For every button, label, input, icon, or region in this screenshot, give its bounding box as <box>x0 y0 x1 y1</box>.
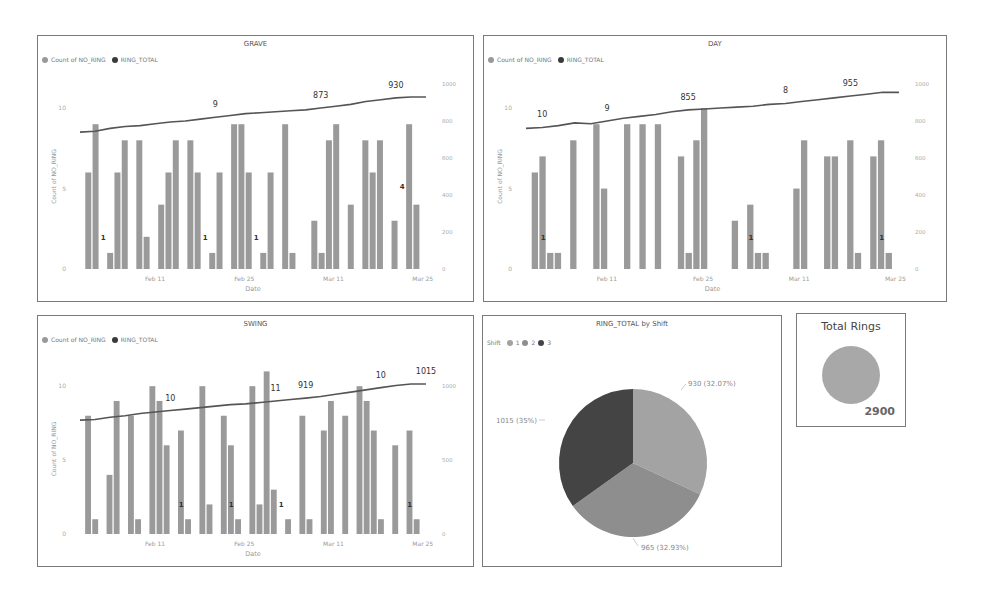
svg-text:9: 9 <box>213 100 218 109</box>
svg-text:8: 8 <box>783 86 788 95</box>
svg-text:10: 10 <box>504 104 512 111</box>
svg-text:600: 600 <box>442 155 453 161</box>
svg-text:1: 1 <box>254 234 259 242</box>
svg-text:1015 (35%): 1015 (35%) <box>496 417 537 425</box>
card-title: Total Rings <box>797 320 905 333</box>
svg-text:Mar 25: Mar 25 <box>412 540 433 547</box>
svg-text:Feb 25: Feb 25 <box>693 275 713 282</box>
svg-text:Mar 11: Mar 11 <box>789 275 810 282</box>
svg-text:5: 5 <box>62 456 66 463</box>
svg-text:10: 10 <box>58 382 66 389</box>
grave-combo-chart: 051002004006008001000Count of NO_RINGDat… <box>38 36 473 301</box>
card-circle-icon <box>822 346 880 404</box>
svg-text:200: 200 <box>915 229 926 235</box>
svg-text:1: 1 <box>229 501 234 509</box>
svg-text:Mar 25: Mar 25 <box>412 275 433 282</box>
svg-text:919: 919 <box>298 381 313 390</box>
swing-combo-chart: 051005001000Count of NO_RINGDate1111Feb … <box>38 316 473 566</box>
svg-text:10: 10 <box>58 104 66 111</box>
svg-text:855: 855 <box>681 93 696 102</box>
svg-text:930 (32.07%): 930 (32.07%) <box>688 380 736 388</box>
total-rings-card[interactable]: Total Rings 2900 <box>796 313 906 427</box>
svg-text:1: 1 <box>203 234 208 242</box>
svg-text:400: 400 <box>442 192 453 198</box>
svg-text:0: 0 <box>442 531 446 537</box>
svg-text:0: 0 <box>442 266 446 272</box>
svg-text:1: 1 <box>101 234 106 242</box>
svg-text:873: 873 <box>313 91 328 100</box>
svg-text:500: 500 <box>442 457 453 463</box>
svg-text:800: 800 <box>442 118 453 124</box>
day-combo-chart: 051002004006008001000Count of NO_RINGDat… <box>484 36 946 301</box>
svg-text:930: 930 <box>388 81 403 90</box>
svg-text:0: 0 <box>915 266 919 272</box>
svg-text:Feb 11: Feb 11 <box>145 275 165 282</box>
svg-text:Count of NO_RING: Count of NO_RING <box>50 149 58 204</box>
svg-text:Mar 11: Mar 11 <box>323 275 344 282</box>
svg-text:1: 1 <box>407 501 412 509</box>
svg-text:Date: Date <box>705 285 721 293</box>
svg-text:965 (32.93%): 965 (32.93%) <box>641 544 689 552</box>
svg-text:200: 200 <box>442 229 453 235</box>
day-chart-panel[interactable]: DAY Count of NO_RING RING_TOTAL 05100200… <box>483 35 947 302</box>
svg-text:11: 11 <box>270 384 280 393</box>
svg-text:Date: Date <box>245 550 261 558</box>
svg-text:9: 9 <box>605 104 610 113</box>
svg-text:0: 0 <box>508 265 512 272</box>
svg-text:1: 1 <box>748 234 753 242</box>
svg-text:5: 5 <box>62 185 66 192</box>
svg-text:Feb 25: Feb 25 <box>234 540 254 547</box>
swing-chart-panel[interactable]: SWING Count of NO_RING RING_TOTAL 051005… <box>37 315 474 567</box>
svg-text:Count of NO_RING: Count of NO_RING <box>496 149 504 204</box>
svg-text:400: 400 <box>915 192 926 198</box>
svg-text:1015: 1015 <box>416 367 436 376</box>
svg-text:1: 1 <box>179 501 184 509</box>
svg-text:1000: 1000 <box>442 81 456 87</box>
svg-text:1: 1 <box>879 234 884 242</box>
svg-text:Feb 25: Feb 25 <box>234 275 254 282</box>
card-value: 2900 <box>864 405 895 418</box>
pie-chart-panel[interactable]: RING_TOTAL by Shift Shift 1 2 3 930 (32.… <box>482 315 782 567</box>
svg-text:Mar 25: Mar 25 <box>885 275 906 282</box>
svg-text:Count of NO_RING: Count of NO_RING <box>50 421 58 476</box>
svg-text:Feb 11: Feb 11 <box>145 540 165 547</box>
grave-chart-panel[interactable]: GRAVE Count of NO_RING RING_TOTAL 051002… <box>37 35 474 302</box>
svg-text:10: 10 <box>165 394 175 403</box>
svg-text:955: 955 <box>843 79 858 88</box>
svg-text:1000: 1000 <box>442 383 456 389</box>
svg-text:0: 0 <box>62 530 66 537</box>
pie-chart: 930 (32.07%)965 (32.93%)1015 (35%) <box>483 316 781 566</box>
svg-text:1: 1 <box>279 501 284 509</box>
svg-text:800: 800 <box>915 118 926 124</box>
svg-text:5: 5 <box>508 185 512 192</box>
svg-text:10: 10 <box>376 371 386 380</box>
svg-text:600: 600 <box>915 155 926 161</box>
svg-text:Mar 11: Mar 11 <box>323 540 344 547</box>
svg-text:1: 1 <box>541 234 546 242</box>
svg-text:10: 10 <box>537 110 547 119</box>
svg-text:Feb 11: Feb 11 <box>597 275 617 282</box>
svg-text:4: 4 <box>400 183 405 191</box>
svg-text:1000: 1000 <box>915 81 929 87</box>
svg-text:Date: Date <box>245 285 261 293</box>
svg-text:0: 0 <box>62 265 66 272</box>
